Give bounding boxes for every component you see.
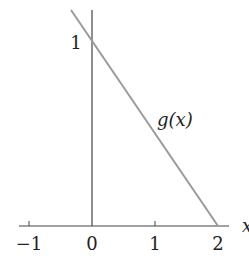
y-tick-label-1: 1 <box>70 32 81 53</box>
x-tick-label-2: 2 <box>212 233 223 254</box>
x-tick-label-0: 0 <box>86 233 97 254</box>
function-label: g(x) <box>157 109 193 130</box>
x-tick-label-1: 1 <box>149 233 160 254</box>
g-line <box>71 10 218 226</box>
x-axis-label: x <box>242 215 249 236</box>
x-tick-label-neg1: −1 <box>16 233 43 254</box>
chart-canvas: −1 0 1 2 1 x g(x) <box>0 0 249 262</box>
